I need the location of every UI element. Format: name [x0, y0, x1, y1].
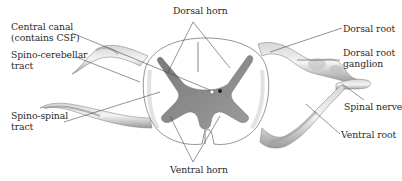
- label-spino-cerebellar-tract: Spino-cerebellar tract: [11, 50, 87, 71]
- label-spino-cerebellar-line2: tract: [11, 61, 87, 72]
- label-dorsal-horn: Dorsal horn: [173, 6, 228, 17]
- canal-dark-spot: [218, 89, 222, 93]
- label-dorsal-root: Dorsal root: [343, 24, 395, 35]
- label-dorsal-root-ganglion-line2: ganglion: [343, 59, 395, 70]
- label-ventral-root: Ventral root: [341, 130, 396, 141]
- label-central-canal: Central canal (contains CSF): [11, 22, 80, 43]
- label-central-canal-line2: (contains CSF): [11, 33, 80, 44]
- label-spino-spinal-line1: Spino-spinal: [11, 111, 68, 122]
- label-central-canal-line1: Central canal: [11, 22, 80, 33]
- label-spinal-nerve: Spinal nerve: [344, 102, 402, 113]
- central-canal: [210, 90, 214, 94]
- label-ventral-horn: Ventral horn: [170, 165, 228, 176]
- label-dorsal-root-ganglion-line1: Dorsal root: [343, 48, 395, 59]
- label-dorsal-root-ganglion: Dorsal root ganglion: [343, 48, 395, 69]
- label-spino-cerebellar-line1: Spino-cerebellar: [11, 50, 87, 61]
- label-spino-spinal-line2: tract: [11, 122, 68, 133]
- label-spino-spinal-tract: Spino-spinal tract: [11, 111, 68, 132]
- right-ventral-root: [260, 85, 344, 148]
